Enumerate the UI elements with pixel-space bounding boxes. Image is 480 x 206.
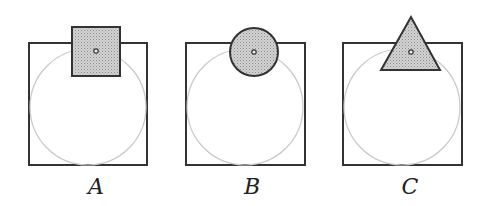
figure-b [186,28,305,165]
center-dot [94,49,98,53]
figure-label-b: B [232,174,272,199]
figure-label-c: C [390,174,430,199]
center-dot [252,50,256,54]
figure-label-a: A [76,174,116,199]
figure-c [343,17,462,165]
center-dot [409,50,413,54]
figure-a [29,27,147,165]
